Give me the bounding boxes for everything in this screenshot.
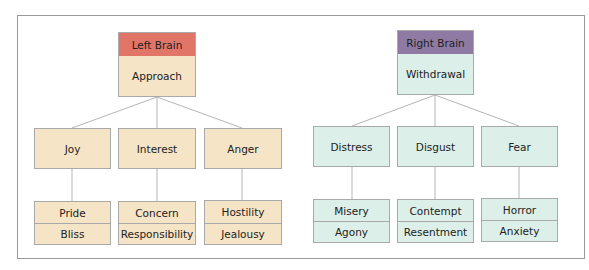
- agony-label: Agony: [314, 221, 389, 242]
- responsibility-label: Responsibility: [119, 223, 195, 244]
- left-brain-header: Left Brain: [118, 32, 196, 57]
- fear-node: Fear: [481, 126, 558, 167]
- anger-subemotions: Hostility Jealousy: [204, 200, 282, 245]
- disgust-subemotions: Contempt Resentment: [397, 199, 474, 243]
- approach-node: Approach: [118, 56, 196, 97]
- right-brain-header: Right Brain: [397, 30, 474, 55]
- resentment-label: Resentment: [398, 221, 473, 242]
- interest-subemotions: Concern Responsibility: [118, 201, 196, 245]
- bliss-label: Bliss: [35, 223, 110, 244]
- joy-node: Joy: [34, 128, 111, 169]
- contempt-label: Contempt: [398, 200, 473, 221]
- hostility-label: Hostility: [205, 201, 281, 223]
- misery-label: Misery: [314, 200, 389, 221]
- pride-label: Pride: [35, 202, 110, 223]
- distress-subemotions: Misery Agony: [313, 199, 390, 243]
- anger-node: Anger: [204, 128, 282, 169]
- fear-subemotions: Horror Anxiety: [481, 198, 558, 242]
- withdrawal-node: Withdrawal: [397, 54, 474, 95]
- joy-subemotions: Pride Bliss: [34, 201, 111, 245]
- horror-label: Horror: [482, 199, 557, 220]
- disgust-node: Disgust: [397, 126, 474, 167]
- jealousy-label: Jealousy: [205, 223, 281, 245]
- concern-label: Concern: [119, 202, 195, 223]
- interest-node: Interest: [118, 128, 196, 169]
- anxiety-label: Anxiety: [482, 220, 557, 241]
- distress-node: Distress: [313, 126, 390, 167]
